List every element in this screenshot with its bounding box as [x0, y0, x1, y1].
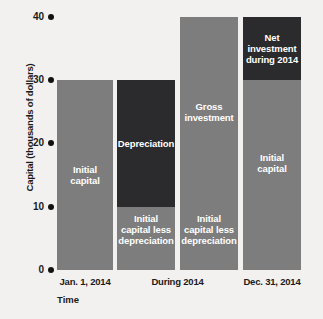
y-tick-dot-icon [48, 204, 54, 210]
plot-area: Initial capital Depreciation Initial cap… [57, 17, 302, 270]
y-tick-10: 10 [18, 201, 54, 213]
y-tick-label-30: 30 [33, 75, 44, 85]
bar-initial-capital: Initial capital [57, 80, 113, 270]
segment-initial-capital: Initial capital [57, 80, 113, 270]
bar-gross-investment: Gross investment Initial capital less de… [180, 17, 238, 270]
segment-depreciation: Depreciation [117, 80, 175, 207]
y-tick-20: 20 [18, 137, 54, 149]
capital-bar-chart: Capital (thousands of dollars) 40 30 20 … [0, 0, 323, 319]
y-tick-label-0: 0 [38, 265, 44, 275]
segment-label: Net investment during 2014 [245, 32, 299, 66]
segment-initial-capital-less-depreciation: Initial capital less depreciation [117, 207, 175, 270]
segment-label: Initial capital [243, 152, 301, 174]
y-tick-0: 0 [18, 264, 54, 276]
segment-label: Initial capital less depreciation [181, 213, 236, 247]
y-tick-30: 30 [18, 74, 54, 86]
y-tick-40: 40 [18, 11, 54, 23]
y-tick-dot-icon [48, 267, 54, 273]
segment-label: Initial capital less depreciation [118, 213, 173, 247]
segment-gross-investment: Gross investment [180, 17, 238, 207]
segment-initial-capital-less-depreciation: Initial capital less depreciation [180, 207, 238, 270]
y-tick-label-10: 10 [33, 202, 44, 212]
y-tick-label-20: 20 [33, 138, 44, 148]
segment-label: Gross investment [182, 101, 236, 123]
y-tick-dot-icon [48, 140, 54, 146]
segment-net-investment: Net investment during 2014 [243, 17, 301, 80]
x-label-during-2014: During 2014 [117, 276, 238, 287]
segment-label: Depreciation [118, 138, 174, 149]
x-label-dec-31-2014: Dec. 31, 2014 [243, 276, 301, 287]
bar-depreciation: Depreciation Initial capital less deprec… [117, 80, 175, 270]
y-tick-label-40: 40 [33, 12, 44, 22]
y-tick-dot-icon [48, 77, 54, 83]
x-axis-title: Time [57, 294, 79, 305]
segment-initial-capital: Initial capital [243, 80, 301, 270]
x-label-jan-1-2014: Jan. 1, 2014 [57, 276, 113, 287]
y-tick-dot-icon [48, 14, 54, 20]
y-axis-title: Capital (thousands of dollars) [24, 33, 35, 223]
segment-label: Initial capital [59, 164, 111, 186]
bar-net-investment: Net investment during 2014 Initial capit… [243, 17, 301, 270]
